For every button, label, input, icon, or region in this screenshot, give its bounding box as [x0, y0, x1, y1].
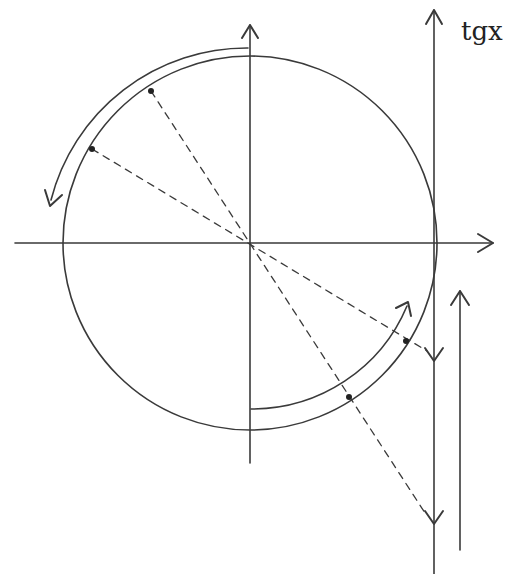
upper-arc-arrow [45, 48, 248, 206]
unit-circle-tangent-diagram [0, 0, 517, 574]
parallel-up-arrow [451, 291, 469, 550]
point-lower-1 [403, 338, 409, 344]
dashed-ray-1 [151, 91, 427, 516]
point-upper-2 [89, 146, 95, 152]
tangent-axis [426, 10, 442, 574]
point-lower-2 [346, 394, 352, 400]
point-upper-1 [148, 88, 154, 94]
lower-arc-arrow [251, 302, 411, 409]
tangent-axis-label: tgx [461, 18, 503, 44]
dashed-ray-2 [92, 149, 427, 351]
dashed-rays [92, 91, 427, 516]
